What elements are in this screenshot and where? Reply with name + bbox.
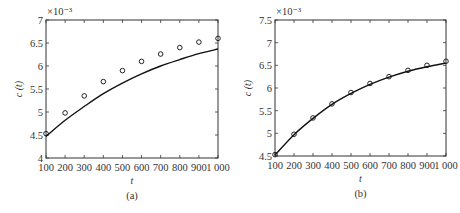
- x-tick-label: 700: [153, 162, 169, 173]
- x-tick-label: 400: [95, 162, 111, 173]
- chart-a-canvas: 1002003004005006007008009001 00044.555.5…: [0, 0, 230, 213]
- y-tick-label: 4.5: [259, 151, 272, 162]
- y-tick-label: 6.5: [30, 38, 43, 49]
- chart-panel-a: 1002003004005006007008009001 00044.555.5…: [0, 0, 230, 213]
- y-axis-label: c (t): [242, 79, 254, 96]
- data-point-marker: [177, 45, 182, 50]
- y-tick-label: 5: [267, 128, 272, 139]
- y-tick-label: 7.5: [259, 15, 272, 26]
- y-tick-label: 7: [267, 38, 272, 49]
- plot-frame: [46, 20, 218, 158]
- x-tick-label: 1 000: [434, 160, 458, 171]
- figure-caption: (a): [126, 190, 138, 202]
- y-tick-label: 6.5: [259, 60, 272, 71]
- y-tick-label: 6: [267, 83, 272, 94]
- x-tick-label: 1 000: [206, 162, 230, 173]
- x-tick-label: 200: [286, 160, 302, 171]
- y-tick-label: 4.5: [30, 130, 43, 141]
- x-tick-label: 600: [362, 160, 378, 171]
- y-tick-label: 4: [38, 153, 44, 164]
- y-axis-label: c (t): [13, 80, 25, 97]
- x-tick-label: 500: [343, 160, 359, 171]
- y-multiplier-label: ×10⁻³: [276, 6, 301, 17]
- model-curve: [275, 63, 446, 155]
- data-point-marker: [82, 94, 87, 99]
- x-tick-label: 500: [115, 162, 131, 173]
- y-multiplier-label: ×10⁻³: [47, 6, 72, 17]
- figure-caption: (b): [354, 188, 367, 200]
- x-axis-label: t: [131, 175, 134, 186]
- data-point-marker: [63, 111, 68, 116]
- chart-b-canvas: 1002003004005006007008009001 0004.555.56…: [230, 0, 460, 213]
- chart-panel-b: 1002003004005006007008009001 0004.555.56…: [230, 0, 460, 213]
- x-tick-label: 800: [172, 162, 188, 173]
- x-axis-label: t: [359, 173, 362, 184]
- model-curve: [46, 49, 218, 136]
- x-tick-label: 300: [76, 162, 92, 173]
- data-point-marker: [139, 59, 144, 64]
- data-point-marker: [197, 40, 202, 45]
- x-tick-label: 800: [400, 160, 416, 171]
- x-tick-label: 400: [324, 160, 340, 171]
- x-tick-label: 900: [191, 162, 207, 173]
- x-tick-label: 300: [305, 160, 321, 171]
- y-tick-label: 6: [38, 61, 43, 72]
- x-tick-label: 200: [57, 162, 73, 173]
- data-point-marker: [158, 52, 163, 57]
- y-tick-label: 7: [38, 15, 43, 26]
- x-tick-label: 700: [381, 160, 397, 171]
- x-tick-label: 600: [134, 162, 150, 173]
- y-tick-label: 5.5: [259, 106, 272, 117]
- data-point-marker: [101, 79, 106, 84]
- x-tick-label: 900: [419, 160, 435, 171]
- y-tick-label: 5.5: [30, 84, 43, 95]
- data-point-marker: [120, 68, 125, 73]
- y-tick-label: 5: [38, 107, 43, 118]
